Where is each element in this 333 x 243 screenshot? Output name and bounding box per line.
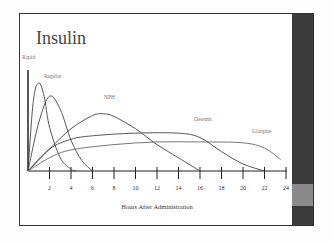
x-tick-label: 6 — [91, 185, 94, 191]
x-tick-label: 8 — [113, 185, 116, 191]
x-axis-title: Hours After Administration — [20, 203, 294, 210]
series-labels: RapidRegularNPHDetemirGlargine — [22, 54, 272, 134]
slide: Insulin 24681012141618202224 RapidRegula… — [19, 13, 314, 226]
x-tick-label: 20 — [240, 185, 246, 191]
insulin-chart: 24681012141618202224 RapidRegularNPHDete… — [20, 14, 314, 226]
x-tick-label: 16 — [197, 185, 203, 191]
label-nph: NPH — [104, 94, 115, 100]
x-ticks — [50, 167, 287, 179]
x-tick-label: 18 — [219, 185, 225, 191]
x-tick-label: 10 — [133, 185, 139, 191]
label-detemir: Detemir — [194, 116, 212, 122]
x-tick-label: 24 — [283, 185, 289, 191]
curves — [28, 83, 281, 171]
side-band-accent — [292, 184, 313, 206]
x-tick-label: 2 — [48, 185, 51, 191]
x-tick-label: 14 — [176, 185, 182, 191]
x-tick-label: 4 — [70, 185, 73, 191]
label-glargine: Glargine — [252, 128, 272, 134]
label-rapid: Rapid — [22, 54, 35, 60]
x-tick-labels: 24681012141618202224 — [48, 185, 289, 191]
curve-glargine — [28, 142, 281, 171]
x-tick-label: 22 — [262, 185, 268, 191]
label-regular: Regular — [44, 73, 62, 79]
x-tick-label: 12 — [154, 185, 160, 191]
